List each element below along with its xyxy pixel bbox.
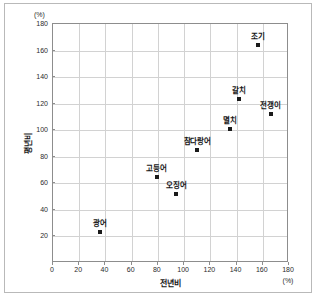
x-tick-label: 20 (74, 266, 82, 273)
data-point (174, 192, 178, 196)
x-tick-mark (131, 262, 132, 265)
y-tick-label: 120 (36, 99, 48, 106)
gridline-horizontal (53, 130, 287, 131)
gridline-vertical (132, 24, 133, 261)
data-point-label: 조기 (251, 30, 265, 41)
x-tick-mark (104, 262, 105, 265)
data-point-label: 고등어 (146, 162, 166, 173)
gridline-vertical (79, 24, 80, 261)
data-point (195, 148, 199, 152)
y-tick-mark (52, 209, 55, 210)
y-tick-mark (52, 156, 55, 157)
gridline-horizontal (53, 77, 287, 78)
gridline-vertical (158, 24, 159, 261)
x-tick-mark (157, 262, 158, 265)
x-tick-mark (78, 262, 79, 265)
y-tick-mark (52, 50, 55, 51)
y-tick-label: 160 (36, 46, 48, 53)
data-point-label: 오징어 (166, 179, 186, 190)
gridline-horizontal (53, 104, 287, 105)
x-axis-title: 전년비 (160, 277, 181, 288)
x-tick-label: 120 (203, 266, 215, 273)
y-tick-mark (52, 235, 55, 236)
y-tick-label: 80 (40, 152, 48, 159)
data-point (228, 127, 232, 131)
y-axis-unit: (%) (34, 11, 45, 18)
y-axis-title: 평년비 (22, 133, 33, 154)
x-axis-unit: (%) (283, 277, 294, 284)
x-tick-label: 0 (50, 266, 54, 273)
data-point (269, 112, 273, 116)
y-tick-mark (52, 23, 55, 24)
plot-area: 광어고등어오징어참다랑어멸치갈치조기전갱이 (52, 23, 288, 262)
x-tick-label: 60 (127, 266, 135, 273)
x-tick-label: 80 (153, 266, 161, 273)
x-tick-label: 40 (101, 266, 109, 273)
x-tick-mark (183, 262, 184, 265)
gridline-horizontal (53, 210, 287, 211)
gridline-horizontal (53, 236, 287, 237)
y-tick-label: 100 (36, 126, 48, 133)
x-tick-label: 100 (177, 266, 189, 273)
x-tick-label: 180 (282, 266, 294, 273)
y-tick-label: 60 (40, 179, 48, 186)
gridline-horizontal (53, 157, 287, 158)
data-point (256, 43, 260, 47)
data-point-label: 광어 (93, 217, 107, 228)
data-point (237, 97, 241, 101)
y-tick-label: 20 (40, 232, 48, 239)
y-tick-mark (52, 182, 55, 183)
x-tick-mark (288, 262, 289, 265)
data-point-label: 갈치 (232, 84, 246, 95)
x-tick-label: 140 (230, 266, 242, 273)
data-point (155, 175, 159, 179)
gridline-horizontal (53, 51, 287, 52)
y-tick-label: 40 (40, 205, 48, 212)
x-tick-mark (209, 262, 210, 265)
data-point (98, 230, 102, 234)
y-tick-mark (52, 103, 55, 104)
gridline-vertical (263, 24, 264, 261)
data-point-label: 전갱이 (260, 99, 280, 110)
y-tick-mark (52, 129, 55, 130)
y-tick-label: 180 (36, 20, 48, 27)
gridline-vertical (237, 24, 238, 261)
data-point-label: 참다랑어 (184, 135, 211, 146)
y-tick-mark (52, 76, 55, 77)
y-tick-label: 140 (36, 73, 48, 80)
data-point-label: 멸치 (223, 114, 237, 125)
x-tick-label: 160 (256, 266, 268, 273)
x-tick-mark (262, 262, 263, 265)
scatter-chart-figure: (%) 광어고등어오징어참다랑어멸치갈치조기전갱이 20406080100120… (0, 0, 316, 299)
x-tick-mark (52, 262, 53, 265)
x-tick-mark (236, 262, 237, 265)
